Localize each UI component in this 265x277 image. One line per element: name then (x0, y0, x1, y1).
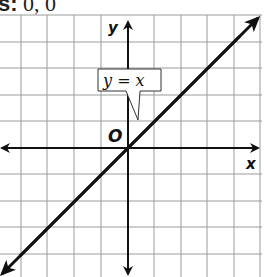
line-y-equals-x (2, 18, 258, 274)
x-axis-label: x (245, 155, 257, 173)
y-axis-label: y (108, 19, 119, 37)
origin-label: O (108, 126, 122, 146)
coordinate-graph: y x O y = x (0, 0, 265, 277)
line-label: y = x (102, 71, 145, 90)
